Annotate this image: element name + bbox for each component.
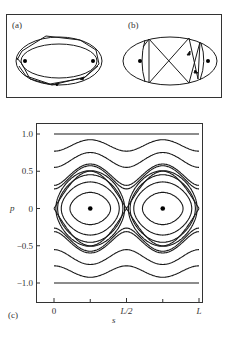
- panel-a-diagram: [16, 36, 102, 86]
- elliptic-fixed-point: [88, 206, 93, 211]
- y-axis-label: p: [9, 203, 15, 213]
- figure: (a) (b) 1.00.50−0.5−1.0 0L/2L p s (c): [0, 0, 228, 339]
- x-tick-label: L: [195, 306, 201, 316]
- x-tick-label: L/2: [119, 306, 133, 316]
- x-axis: 0L/2L: [52, 298, 202, 316]
- panel-b-diagram: [123, 37, 217, 85]
- arrow-icon: [194, 70, 198, 73]
- focus-dot: [23, 59, 27, 63]
- orbit-a-2: [19, 66, 98, 84]
- phase-curves: [54, 134, 199, 283]
- rotation-curve: [54, 250, 199, 265]
- arrow-icon: [80, 77, 84, 80]
- elliptic-fixed-point: [160, 206, 165, 211]
- rotation-curve: [54, 266, 199, 278]
- panel-a-label: (a): [12, 20, 22, 30]
- focus-dot: [206, 59, 210, 63]
- rotation-curve: [54, 153, 199, 168]
- separatrix: [54, 171, 199, 208]
- panel-b-label: (b): [128, 20, 139, 30]
- caustic-hyperbola-right: [200, 43, 204, 80]
- x-tick-label: 0: [52, 306, 57, 316]
- arrow-icon: [187, 51, 190, 55]
- y-tick-label: −1.0: [17, 278, 34, 288]
- caustic-ellipse-a: [21, 44, 97, 78]
- rotation-curve: [54, 140, 199, 152]
- y-tick-label: −0.5: [17, 241, 34, 251]
- focus-dot: [138, 59, 142, 63]
- focus-dot: [91, 59, 95, 63]
- y-tick-label: 0: [29, 204, 34, 214]
- orbit-b: [149, 38, 200, 83]
- billiard-ellipse-b: [123, 37, 217, 85]
- y-tick-label: 0.5: [22, 166, 34, 176]
- y-tick-label: 1.0: [22, 129, 34, 139]
- panel-c-label: (c): [8, 310, 18, 320]
- x-axis-label: s: [112, 315, 116, 325]
- top-frame: [7, 15, 222, 98]
- arrow-icon: [55, 83, 59, 86]
- separatrix: [54, 209, 199, 246]
